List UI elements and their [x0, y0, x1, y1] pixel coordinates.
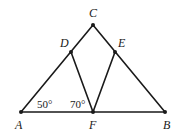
segment-ef: [93, 52, 115, 112]
segment-cb: [93, 25, 165, 112]
point-d-dot: [69, 50, 73, 54]
point-a-label: A: [14, 118, 23, 132]
point-b-label: B: [163, 118, 171, 132]
point-c-label: C: [89, 6, 98, 20]
triangle-diagram: A B C D E F 50° 70°: [0, 0, 180, 136]
point-b-dot: [163, 110, 167, 114]
angle-f-label: 70°: [70, 98, 85, 110]
point-e-dot: [113, 50, 117, 54]
angle-a-label: 50°: [37, 98, 52, 110]
point-f-label: F: [88, 118, 97, 132]
point-a-dot: [19, 110, 23, 114]
point-d-label: D: [59, 36, 69, 50]
point-f-dot: [91, 110, 95, 114]
point-e-label: E: [117, 36, 126, 50]
point-c-dot: [91, 23, 95, 27]
